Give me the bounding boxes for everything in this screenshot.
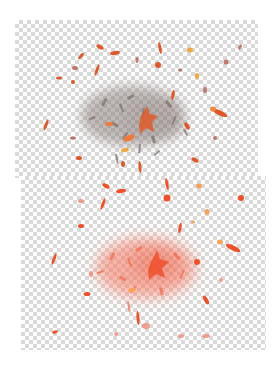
splatter-image-bottom <box>21 176 266 350</box>
splatter-image-top <box>15 20 258 178</box>
splatter-particles-bottom <box>21 176 266 350</box>
splatter-particles-top <box>15 20 258 178</box>
